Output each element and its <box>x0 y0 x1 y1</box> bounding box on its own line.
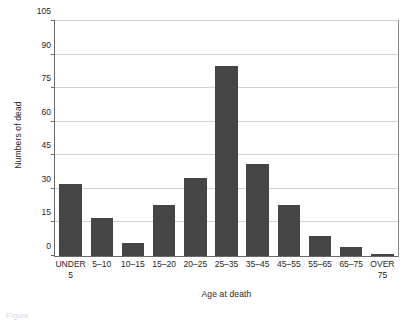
y-tick-label: 30 <box>42 174 51 184</box>
bar <box>246 164 268 256</box>
bar-column <box>340 21 362 256</box>
x-tick-label: OVER 75 <box>362 259 403 280</box>
bar-column <box>59 21 81 256</box>
y-axis-title: Numbers of dead <box>13 75 23 195</box>
plot-area: 0153045607590105 UNDER 55–1010–1515–2020… <box>54 20 399 257</box>
bar-column <box>215 21 237 256</box>
bar <box>153 205 175 256</box>
bar-chart-figure: Numbers of dead 0153045607590105 UNDER 5… <box>0 0 409 320</box>
bar <box>91 218 113 256</box>
bar <box>309 236 331 256</box>
bar <box>184 178 206 256</box>
y-tick-label: 105 <box>37 6 51 16</box>
bar-column <box>278 21 300 256</box>
figure-caption: Figure <box>6 311 29 320</box>
bar-column <box>371 21 393 256</box>
y-tick-label: 60 <box>42 107 51 117</box>
bar-series <box>55 21 398 256</box>
bar <box>122 243 144 256</box>
bar-column <box>246 21 268 256</box>
bar <box>371 254 393 256</box>
y-tick-label: 15 <box>42 207 51 217</box>
bar <box>59 184 81 256</box>
bar <box>340 247 362 256</box>
bar-column <box>122 21 144 256</box>
bar <box>278 205 300 256</box>
y-tick-label: 90 <box>42 40 51 50</box>
y-tick-label: 45 <box>42 140 51 150</box>
bar-column <box>184 21 206 256</box>
bar-column <box>91 21 113 256</box>
x-axis-title: Age at death <box>54 289 399 299</box>
bar-column <box>153 21 175 256</box>
bar <box>215 66 237 256</box>
bar-column <box>309 21 331 256</box>
y-tick-label: 75 <box>42 73 51 83</box>
y-tick-label: 0 <box>46 241 51 251</box>
